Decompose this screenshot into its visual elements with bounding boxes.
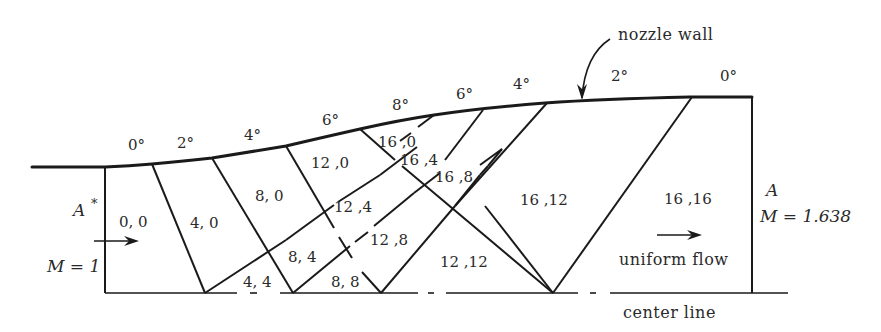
region-label: 8, 8: [331, 273, 360, 291]
region-label: 0, 0: [119, 213, 148, 231]
nozzle-wall-pointer-arrow: [577, 39, 610, 100]
region-label: 16 ,16: [664, 190, 712, 208]
wall-angle: 2°: [177, 134, 194, 152]
region-label: 8, 4: [288, 248, 317, 266]
region-label: 12 ,0: [311, 154, 349, 172]
region-label: 8, 0: [255, 187, 284, 205]
wall-angle: 6°: [322, 111, 339, 129]
region-label: 12 ,8: [370, 231, 408, 249]
region-label: 16 ,8: [435, 168, 473, 186]
region-label: 12 ,12: [440, 253, 488, 271]
region-label: 16 ,0: [378, 133, 416, 151]
throat-mach-label: M = 1: [46, 256, 100, 276]
region-label: 12 ,4: [334, 198, 372, 216]
uniform-flow-label: uniform flow: [619, 250, 729, 269]
region-label: 4, 4: [243, 273, 272, 291]
wall-angle: 2°: [611, 67, 628, 85]
wall-angle: 6°: [456, 85, 473, 103]
flow-arrow-inlet: [94, 236, 139, 246]
wall-angle: 8°: [392, 96, 409, 114]
exit-mach-label: M = 1.638: [759, 206, 851, 226]
flow-arrow-outlet: [657, 230, 702, 240]
wall-angle: 4°: [513, 75, 530, 93]
wall-angle-labels: 0° 2° 4° 6° 8° 6° 4° 2° 0°: [128, 67, 737, 154]
region-label: 16 ,4: [400, 151, 438, 169]
nozzle-characteristics-diagram: nozzle wall center line uniform flow A *…: [0, 0, 881, 332]
throat-area-label: A: [71, 200, 85, 220]
exit-area-label: A: [764, 180, 778, 200]
wall-angle: 0°: [128, 136, 145, 154]
center-line-label: center line: [623, 303, 716, 322]
wall-angle: 4°: [244, 126, 261, 144]
wall-angle: 0°: [720, 67, 737, 85]
nozzle-wall-label: nozzle wall: [618, 25, 713, 44]
region-label: 4, 0: [190, 214, 219, 232]
region-label: 16 ,12: [520, 191, 568, 209]
throat-star: *: [91, 196, 98, 211]
